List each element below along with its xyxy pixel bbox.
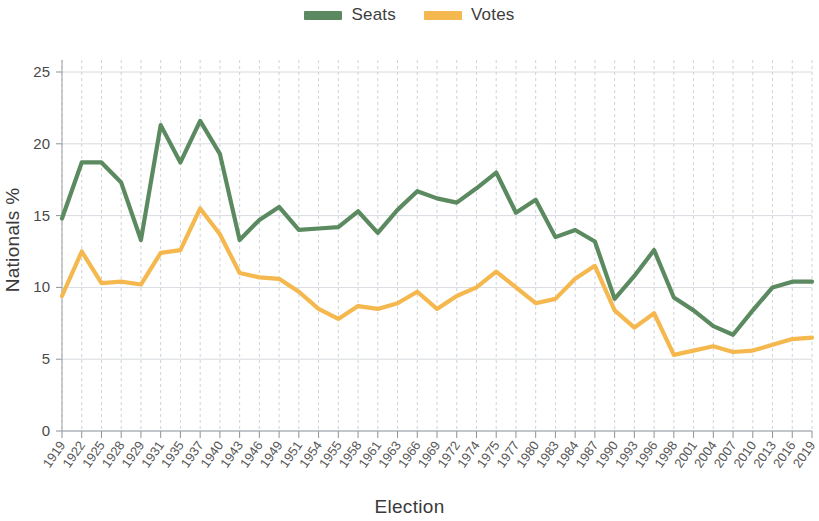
- x-tick-label: 2019: [790, 438, 819, 470]
- plot-area: 0510152025191919221925192819291931193519…: [0, 0, 819, 521]
- y-tick-label: 0: [42, 422, 50, 439]
- y-tick-label: 5: [42, 350, 50, 367]
- y-tick-label: 10: [33, 278, 50, 295]
- y-tick-label: 25: [33, 63, 50, 80]
- y-tick-label: 15: [33, 207, 50, 224]
- y-tick-label: 20: [33, 135, 50, 152]
- line-chart: Seats Votes Nationals % Election 0510152…: [0, 0, 819, 521]
